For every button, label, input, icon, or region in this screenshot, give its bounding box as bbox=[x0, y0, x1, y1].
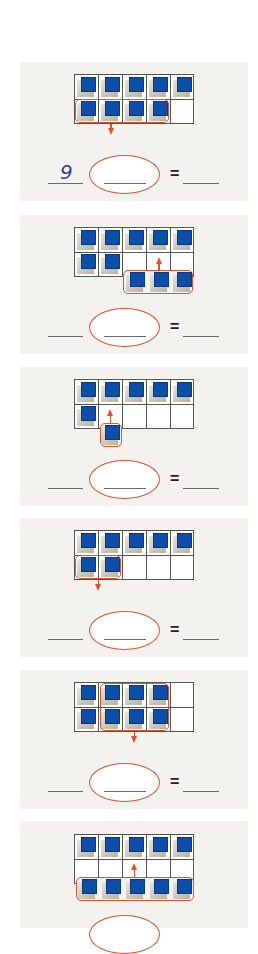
cube-icon bbox=[150, 272, 170, 292]
cube-icon bbox=[101, 230, 121, 250]
cube-icon bbox=[77, 837, 97, 857]
cube-icon bbox=[77, 533, 97, 553]
cube-icon bbox=[77, 685, 97, 705]
cube-icon bbox=[126, 272, 146, 292]
cube-icon bbox=[125, 837, 145, 857]
cube-icon bbox=[101, 382, 121, 402]
operator-oval[interactable] bbox=[89, 460, 160, 499]
cube-icon bbox=[125, 533, 145, 553]
operator-oval[interactable] bbox=[89, 155, 160, 194]
cube-icon bbox=[78, 879, 98, 899]
cube-icon bbox=[149, 837, 169, 857]
cube-icon bbox=[125, 382, 145, 402]
cube-icon bbox=[102, 879, 122, 899]
cube-icon bbox=[173, 879, 193, 899]
arrow-up-icon bbox=[131, 863, 137, 870]
middle-blank[interactable] bbox=[104, 336, 146, 337]
problem-2: = bbox=[20, 215, 248, 354]
cube-icon bbox=[125, 230, 145, 250]
cube-icon bbox=[101, 254, 121, 274]
equals-sign: = bbox=[170, 165, 179, 183]
cube-icon bbox=[149, 533, 169, 553]
group-highlight bbox=[100, 683, 169, 731]
cube-icon bbox=[77, 254, 97, 274]
operator-oval[interactable] bbox=[89, 611, 160, 650]
middle-blank[interactable] bbox=[104, 639, 146, 640]
arrow-down-icon bbox=[108, 128, 114, 135]
cube-icon bbox=[77, 382, 97, 402]
group-highlight bbox=[75, 555, 121, 579]
operator-oval[interactable] bbox=[89, 308, 160, 347]
handwritten-answer: 9 bbox=[60, 160, 73, 184]
arrow-down-icon bbox=[95, 584, 101, 591]
cube-icon bbox=[173, 77, 193, 97]
arrow-stem bbox=[134, 869, 136, 877]
cube-icon bbox=[126, 879, 146, 899]
cube-icon bbox=[150, 879, 170, 899]
middle-blank[interactable] bbox=[104, 183, 146, 184]
result-blank[interactable] bbox=[183, 639, 219, 640]
ten-frame bbox=[74, 379, 194, 429]
equals-sign: = bbox=[170, 621, 179, 639]
cube-icon bbox=[77, 230, 97, 250]
cube-icon bbox=[77, 406, 97, 426]
arrow-up-icon bbox=[156, 257, 162, 264]
result-blank[interactable] bbox=[183, 336, 219, 337]
result-blank[interactable] bbox=[183, 183, 219, 184]
equals-sign: = bbox=[170, 470, 179, 488]
equals-sign: = bbox=[170, 318, 179, 336]
arrow-down-icon bbox=[131, 736, 137, 743]
middle-blank[interactable] bbox=[104, 791, 146, 792]
operator-oval[interactable] bbox=[89, 763, 160, 802]
middle-blank[interactable] bbox=[104, 488, 146, 489]
cube-icon bbox=[101, 837, 121, 857]
cube-icon bbox=[77, 709, 97, 729]
cube-icon bbox=[101, 77, 121, 97]
group-highlight bbox=[75, 99, 169, 123]
first-blank[interactable] bbox=[48, 336, 83, 337]
result-blank[interactable] bbox=[183, 488, 219, 489]
arrow-stem bbox=[110, 415, 112, 423]
cube-icon bbox=[173, 837, 193, 857]
problem-3: = bbox=[20, 367, 248, 506]
first-blank[interactable] bbox=[48, 791, 83, 792]
problem-6 bbox=[20, 821, 248, 928]
first-blank[interactable] bbox=[48, 488, 83, 489]
cube-icon bbox=[125, 77, 145, 97]
cube-icon bbox=[77, 77, 97, 97]
problem-1: 9 = bbox=[20, 62, 248, 201]
cube-icon bbox=[149, 230, 169, 250]
first-blank[interactable] bbox=[48, 639, 83, 640]
equals-sign: = bbox=[170, 773, 179, 791]
cube-icon bbox=[173, 230, 193, 250]
cube-icon bbox=[101, 533, 121, 553]
result-blank[interactable] bbox=[183, 791, 219, 792]
operator-oval[interactable] bbox=[89, 915, 160, 954]
cube-icon bbox=[149, 382, 169, 402]
cube-icon bbox=[101, 425, 121, 445]
cube-icon bbox=[149, 77, 169, 97]
problem-4: = bbox=[20, 518, 248, 657]
arrow-up-icon bbox=[107, 409, 113, 416]
problem-5: = bbox=[20, 670, 248, 809]
cube-icon bbox=[173, 533, 193, 553]
cube-icon bbox=[173, 272, 193, 292]
cube-icon bbox=[173, 382, 193, 402]
